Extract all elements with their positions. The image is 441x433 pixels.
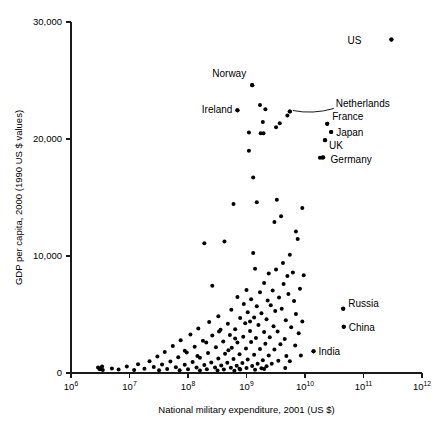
data-point: [217, 329, 221, 333]
data-point: [207, 320, 211, 324]
data-point: [198, 368, 202, 372]
data-point: [210, 284, 214, 288]
data-point: [286, 292, 290, 296]
data-point: [245, 288, 249, 292]
data-point: [238, 352, 242, 356]
data-point: [247, 131, 251, 135]
data-point: [196, 327, 200, 331]
y-tick-label: 0: [57, 367, 62, 378]
data-point: [261, 131, 265, 135]
data-point: [110, 367, 114, 371]
data-point: [232, 357, 236, 361]
data-point: [233, 336, 237, 340]
data-point: [241, 335, 245, 339]
data-point: [171, 344, 175, 348]
data-point: [274, 125, 278, 129]
data-point-labeled: [235, 108, 239, 112]
data-point: [222, 239, 226, 243]
data-point-labeled: [311, 349, 315, 353]
y-tick-label: 20,000: [33, 133, 62, 144]
data-point: [283, 366, 287, 370]
data-point: [299, 353, 303, 357]
data-point: [223, 352, 227, 356]
data-point: [125, 365, 129, 369]
data-point: [186, 367, 190, 371]
data-point: [221, 339, 225, 343]
point-label: US: [347, 35, 361, 46]
data-point: [278, 342, 282, 346]
data-point: [233, 327, 237, 331]
data-point: [256, 323, 260, 327]
data-point: [232, 369, 236, 373]
data-point: [255, 200, 259, 204]
data-point: [247, 149, 251, 153]
data-point: [262, 281, 266, 285]
data-point: [262, 367, 266, 371]
point-label: France: [332, 111, 364, 122]
x-tick-label: 108: [181, 380, 196, 392]
data-point: [243, 321, 247, 325]
data-point: [183, 349, 187, 353]
data-point: [274, 267, 278, 271]
x-tick-label: 1011: [355, 380, 373, 392]
point-label: India: [319, 346, 341, 357]
data-point: [142, 367, 146, 371]
data-point-labeled: [389, 37, 393, 41]
data-point: [281, 261, 285, 265]
data-point: [191, 360, 195, 364]
x-tick-label: 1010: [296, 380, 314, 392]
data-point: [238, 367, 242, 371]
data-point: [249, 297, 253, 301]
data-point: [259, 311, 263, 315]
data-point: [232, 202, 236, 206]
data-point: [294, 312, 298, 316]
data-point: [276, 359, 280, 363]
data-point: [276, 329, 280, 333]
y-tick-label: 10,000: [33, 250, 62, 261]
data-point: [148, 359, 152, 363]
data-point: [96, 365, 100, 369]
data-point: [229, 366, 233, 370]
data-point: [248, 320, 252, 324]
data-point: [280, 307, 284, 311]
data-point: [269, 303, 273, 307]
data-point: [255, 304, 259, 308]
data-point: [279, 214, 283, 218]
data-point: [256, 362, 260, 366]
data-point: [253, 368, 257, 372]
data-point: [272, 348, 276, 352]
data-point: [174, 365, 178, 369]
data-point: [272, 220, 276, 224]
chart-canvas: 010,00020,00030,000106107108109101010111…: [0, 0, 441, 433]
x-tick-label: 1012: [413, 380, 431, 392]
data-point: [282, 282, 286, 286]
data-point: [155, 355, 159, 359]
data-point: [206, 351, 210, 355]
data-point: [298, 287, 302, 291]
data-point: [289, 325, 293, 329]
data-point: [285, 274, 289, 278]
data-point: [261, 120, 265, 124]
data-point: [244, 346, 248, 350]
data-point: [205, 367, 209, 371]
data-point: [195, 365, 199, 369]
point-label: Norway: [212, 68, 246, 79]
data-point: [270, 362, 274, 366]
data-point: [152, 365, 156, 369]
data-point: [214, 345, 218, 349]
data-point: [275, 198, 279, 202]
data-point: [226, 348, 230, 352]
point-label: Russia: [348, 298, 379, 309]
data-point: [266, 298, 270, 302]
data-point: [195, 354, 199, 358]
data-point: [252, 315, 256, 319]
data-point: [245, 366, 249, 370]
data-point-labeled: [323, 138, 327, 142]
data-point: [263, 342, 267, 346]
data-point: [235, 295, 239, 299]
data-point: [225, 361, 229, 365]
data-point-labeled: [250, 83, 254, 87]
data-point: [278, 121, 282, 125]
data-point: [284, 318, 288, 322]
data-point: [283, 337, 287, 341]
